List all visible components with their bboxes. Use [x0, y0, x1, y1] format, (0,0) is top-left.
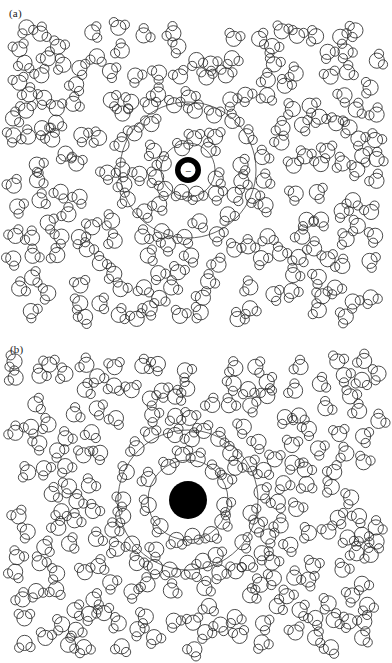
panel-a-svg: −	[0, 0, 392, 336]
panel-a: (a) −	[0, 0, 392, 336]
panel-b-svg	[0, 336, 392, 663]
svg-text:−: −	[185, 165, 191, 177]
panel-b-ion	[169, 481, 207, 519]
panel-b: (b)	[0, 336, 392, 663]
panel-a-ion: −	[175, 157, 202, 184]
panel-b-scene	[0, 336, 392, 663]
figure-root: (a) − (b)	[0, 0, 392, 663]
panel-a-scene: −	[0, 0, 392, 336]
